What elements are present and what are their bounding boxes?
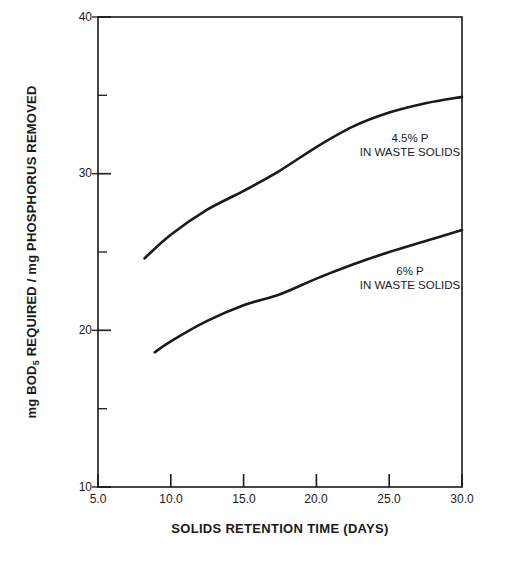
series-annotation-4-5-percent-p-line2: IN WASTE SOLIDS [335,145,485,159]
series-annotation-6-percent-p-line1: 6% P [335,264,485,278]
series-annotation-6-percent-p-line2: IN WASTE SOLIDS [335,278,485,292]
series-line-4-5-percent-p [145,97,462,258]
y-minor-ticks [98,95,107,408]
x-major-ticks [98,474,462,487]
chart-figure: mg BOD5 REQUIRED / mg PHOSPHORUS REMOVED… [0,0,508,565]
series-annotation-4-5-percent-p-line1: 4.5% P [335,131,485,145]
series-annotation-6-percent-p: 6% P IN WASTE SOLIDS [335,264,485,292]
series-annotation-4-5-percent-p: 4.5% P IN WASTE SOLIDS [335,131,485,159]
y-tick-stubs-outer [92,17,98,487]
